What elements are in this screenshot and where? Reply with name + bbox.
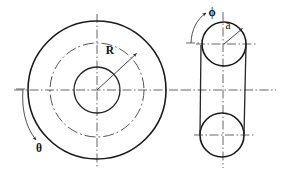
left-body-edge [200, 45, 201, 134]
label-poloidal-angle: ϕ [208, 6, 215, 19]
front-view-group: R θ [14, 14, 182, 167]
drawing-svg: R θ [0, 0, 282, 174]
label-major-radius: R [106, 44, 115, 56]
radius-leader-line [97, 54, 137, 91]
phi-arc-arrow [191, 13, 206, 43]
theta-arc-arrow [23, 89, 36, 140]
label-toroidal-angle: θ [36, 142, 42, 154]
side-view-group: a ϕ [182, 6, 276, 168]
right-body-edge [244, 45, 246, 134]
label-minor-radius: a [225, 19, 230, 31]
engineering-drawing-canvas: R θ [0, 0, 282, 174]
